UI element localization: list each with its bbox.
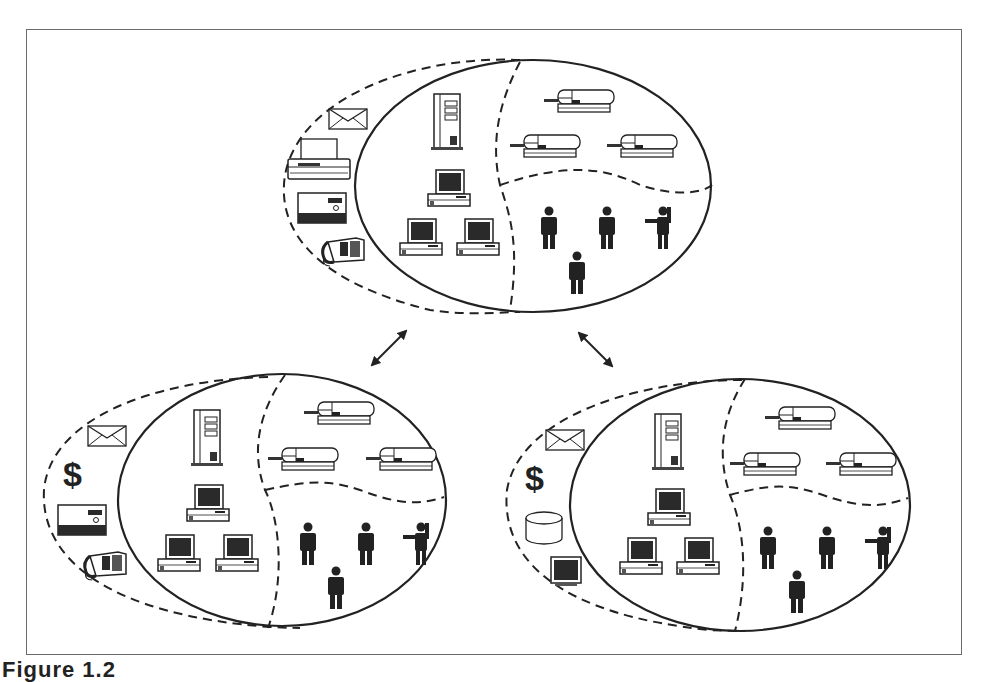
site-bottom-right — [506, 379, 910, 631]
person-icon — [328, 567, 344, 610]
person-icon — [569, 252, 585, 295]
link-arrow-top-to-left — [372, 331, 406, 365]
site-bottom-left — [44, 374, 446, 628]
desktop-icon — [428, 170, 470, 206]
person-icon — [760, 527, 776, 570]
telephone-icon — [85, 552, 126, 580]
desktop-icon — [187, 485, 229, 521]
scanner-icon — [366, 448, 436, 470]
fax-icon — [58, 505, 106, 535]
scanner-icon — [730, 453, 800, 475]
person-icon — [789, 571, 805, 614]
envelope-icon — [546, 430, 584, 450]
desktop-icon — [158, 535, 200, 571]
person-icon — [300, 523, 316, 566]
person-waving-icon — [645, 207, 671, 250]
desktop-icon — [457, 219, 499, 255]
fax-icon — [298, 193, 346, 223]
outer-boundary-dashed — [506, 380, 745, 631]
site-top — [284, 60, 712, 314]
desktop-icon — [677, 538, 719, 574]
scanner-icon — [826, 453, 896, 475]
core-ellipse — [570, 379, 910, 631]
core-ellipse — [355, 60, 711, 312]
scanner-icon — [765, 407, 835, 429]
person-icon — [541, 207, 557, 250]
person-waving-icon — [403, 523, 429, 566]
server-icon — [191, 410, 223, 466]
person-icon — [819, 527, 835, 570]
monitor-icon — [551, 557, 581, 586]
scanner-icon — [304, 402, 374, 424]
envelope-icon — [329, 109, 367, 129]
dollar-icon — [525, 459, 544, 497]
scanner-icon — [607, 135, 677, 157]
dollar-icon — [63, 455, 82, 493]
desktop-icon — [648, 489, 690, 525]
desktop-icon — [216, 535, 258, 571]
desktop-icon — [400, 219, 442, 255]
database-icon — [526, 512, 562, 544]
envelope-icon — [88, 426, 126, 446]
core-ellipse — [118, 374, 446, 626]
person-icon — [358, 523, 374, 566]
scanner-icon — [510, 135, 580, 157]
telephone-icon — [323, 238, 364, 266]
figure-caption: Figure 1.2 — [2, 659, 116, 681]
server-icon — [431, 94, 463, 150]
scanner-icon — [268, 448, 338, 470]
desktop-icon — [620, 538, 662, 574]
scanner-icon — [544, 90, 614, 112]
outer-boundary-dashed — [44, 377, 300, 628]
outer-boundary-dashed — [284, 60, 520, 314]
person-icon — [599, 207, 615, 250]
server-icon — [652, 414, 684, 470]
person-waving-icon — [865, 527, 891, 570]
link-arrow-top-to-right — [579, 333, 612, 366]
